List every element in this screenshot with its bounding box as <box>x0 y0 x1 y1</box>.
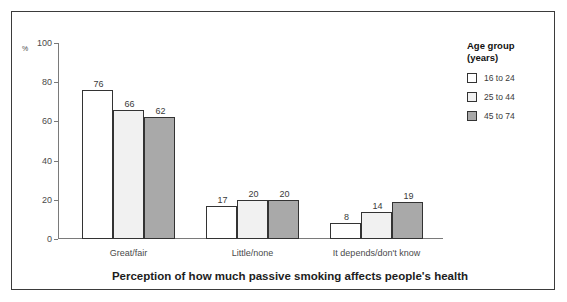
bar: 62 <box>144 117 175 239</box>
y-axis-tick-label: 0 <box>47 234 52 244</box>
bar-group: 172020Little/none <box>206 43 299 239</box>
bar-value-label: 19 <box>393 191 424 201</box>
bar-group: 766662Great/fair <box>82 43 175 239</box>
bar: 20 <box>268 200 299 239</box>
y-axis-tick <box>54 43 58 44</box>
plot-area: 020406080100 766662Great/fair172020Littl… <box>58 43 443 239</box>
bar-value-label: 17 <box>207 195 238 205</box>
bar-value-label: 66 <box>114 99 145 109</box>
y-axis-tick-label: 80 <box>42 77 52 87</box>
x-axis-category-label: Great/fair <box>110 248 148 258</box>
legend-title: Age group (years) <box>467 40 553 64</box>
y-axis-tick <box>54 161 58 162</box>
y-axis-tick <box>54 82 58 83</box>
legend-item-label: 45 to 74 <box>484 111 515 121</box>
bar-value-label: 20 <box>269 189 300 199</box>
legend-swatch-icon <box>467 111 477 121</box>
y-axis-tick <box>54 239 58 240</box>
y-axis-tick <box>54 200 58 201</box>
legend: Age group (years) 16 to 2425 to 4445 to … <box>467 40 553 121</box>
y-axis-tick <box>54 121 58 122</box>
y-axis-tick-label: 60 <box>42 116 52 126</box>
x-axis-category-label: Little/none <box>232 248 274 258</box>
x-axis-title-text: Perception of how much passive smoking a… <box>98 270 468 282</box>
legend-title-line-1: Age group <box>467 40 553 52</box>
bar: 8 <box>330 223 361 239</box>
legend-item: 45 to 74 <box>467 111 553 121</box>
legend-item-label: 25 to 44 <box>484 92 515 102</box>
y-axis-line <box>58 43 59 239</box>
bar-value-label: 20 <box>238 189 269 199</box>
bar: 20 <box>237 200 268 239</box>
bar-value-label: 8 <box>331 212 362 222</box>
y-axis-tick-label: 20 <box>42 195 52 205</box>
legend-title-line-2: (years) <box>467 52 553 64</box>
bar-group: 81419It depends/don't know <box>330 43 423 239</box>
bar-value-label: 76 <box>83 79 114 89</box>
legend-item-label: 16 to 24 <box>484 73 515 83</box>
bar: 14 <box>361 212 392 239</box>
legend-swatch-icon <box>467 73 477 83</box>
percent-axis-symbol: % <box>22 45 28 52</box>
y-axis-tick-label: 40 <box>42 156 52 166</box>
bar-value-label: 14 <box>362 201 393 211</box>
legend-item: 16 to 24 <box>467 73 553 83</box>
x-axis-title: Perception of how much passive smoking a… <box>12 270 554 282</box>
bar: 66 <box>113 110 144 239</box>
legend-items: 16 to 2425 to 4445 to 74 <box>467 73 553 121</box>
legend-item: 25 to 44 <box>467 92 553 102</box>
bar-value-label: 62 <box>145 106 176 116</box>
y-axis-tick-label: 100 <box>37 38 52 48</box>
legend-swatch-icon <box>467 92 477 102</box>
chart-frame: % 020406080100 766662Great/fair172020Lit… <box>11 11 555 290</box>
bar: 17 <box>206 206 237 239</box>
x-axis-category-label: It depends/don't know <box>333 248 420 258</box>
bar: 19 <box>392 202 423 239</box>
bar: 76 <box>82 90 113 239</box>
